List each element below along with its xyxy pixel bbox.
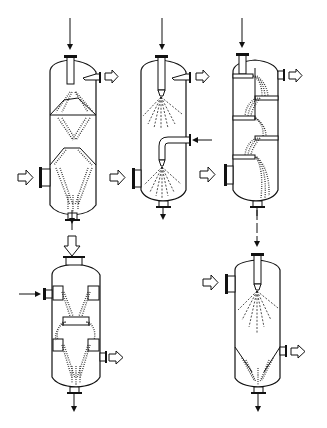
- liquid-outlet-arrow-icon: [255, 406, 261, 412]
- trough: [53, 339, 63, 351]
- gas-outlet-arrow-icon: [196, 70, 209, 83]
- tray: [255, 96, 278, 100]
- vessel-e: [203, 210, 305, 412]
- liquid-outlet-arrow-icon: [71, 406, 77, 412]
- gas-inlet-arrow-icon: [200, 167, 215, 182]
- gas-inlet-arrow-icon: [18, 170, 33, 185]
- vessel-a: [18, 18, 118, 230]
- diagram-canvas: [0, 0, 327, 428]
- gas-outlet-arrow-icon: [291, 345, 305, 358]
- gas-outlet-arrow-icon: [109, 351, 123, 364]
- gas-outlet-arrow-icon: [289, 69, 302, 82]
- tray: [233, 74, 253, 78]
- trough: [53, 286, 63, 300]
- liquid-outlet-arrow-icon: [160, 214, 166, 220]
- liquid-inlet-arrow-icon: [254, 241, 260, 247]
- gas-inlet-arrow-icon: [203, 275, 218, 290]
- trough: [88, 286, 99, 300]
- tray: [233, 155, 255, 159]
- gas-outlet-arrow-icon: [105, 70, 118, 83]
- vessel-c: [200, 18, 302, 216]
- trough: [63, 317, 89, 325]
- vessel-b: [110, 18, 212, 220]
- tray: [255, 136, 278, 140]
- vessel-d: [19, 210, 123, 412]
- vessel-diagram: [0, 0, 327, 428]
- tray: [233, 116, 255, 120]
- gas-inlet-arrow-icon: [64, 236, 80, 256]
- gas-inlet-arrow-icon: [110, 170, 125, 185]
